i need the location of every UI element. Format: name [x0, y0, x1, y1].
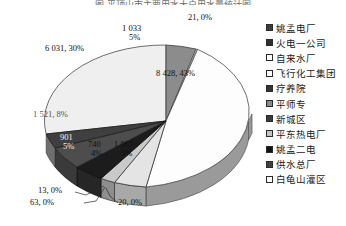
legend-item-baiguishan-irrigation-area[interactable]: 白龟山灌区	[266, 172, 346, 187]
legend-item-pingdong-thermal-plant[interactable]: 平东热电厂	[266, 126, 346, 141]
legend-item-yaomeng-power-plant[interactable]: 姚孟电厂	[266, 20, 346, 35]
legend-swatch-icon	[266, 161, 273, 168]
legend-swatch-icon	[266, 146, 273, 153]
legend-label: 新城区	[276, 112, 306, 126]
legend-swatch-icon	[266, 39, 273, 46]
legend-label: 疗养院	[276, 81, 306, 95]
legend-item-sanatorium[interactable]: 疗养院	[266, 81, 346, 96]
legend-item-pingshizhuan[interactable]: 平师专	[266, 96, 346, 111]
slice-label-1033-percent: 5%	[129, 33, 140, 43]
legend-item-yaomeng-second-power[interactable]: 姚孟二电	[266, 142, 346, 157]
legend-item-thermal-power-company-1[interactable]: 火电一公司	[266, 35, 346, 50]
legend-swatch-icon	[266, 85, 273, 92]
legend-item-water-supply-main-plant[interactable]: 供水总厂	[266, 157, 346, 172]
legend-label: 火电一公司	[276, 36, 326, 50]
legend-label: 平师专	[276, 97, 306, 111]
legend-label: 姚孟二电	[276, 142, 316, 156]
chart-legend: 姚孟电厂 火电一公司 自来水厂 飞行化工集团 疗养院 平师专 新城区 平东热电	[266, 20, 346, 187]
legend-label: 姚孟电厂	[276, 21, 316, 35]
slice-label-20: 20, 0%	[118, 198, 142, 208]
legend-label: 飞行化工集团	[276, 66, 336, 80]
legend-swatch-icon	[266, 24, 273, 31]
slice-label-1521: 1 521, 8%	[33, 110, 68, 120]
slice-label-740-percent: 4%	[91, 149, 102, 159]
legend-swatch-icon	[266, 70, 273, 77]
legend-label: 供水总厂	[276, 157, 316, 171]
legend-swatch-icon	[266, 130, 273, 137]
slice-label-6031: 6 031, 30%	[45, 44, 84, 54]
legend-item-feixing-chemical-group[interactable]: 飞行化工集团	[266, 66, 346, 81]
legend-label: 自来水厂	[276, 51, 316, 65]
legend-label: 白龟山灌区	[276, 172, 326, 186]
slice-6031	[44, 45, 166, 134]
slice-label-901-percent: 5%	[63, 142, 74, 152]
legend-item-new-city-district[interactable]: 新城区	[266, 111, 346, 126]
legend-swatch-icon	[266, 115, 273, 122]
pie-chart-figure: 图 平顶山市主要用水大户用水量统计图	[0, 0, 346, 226]
slice-label-13: 13, 0%	[38, 186, 62, 196]
legend-swatch-icon	[266, 54, 273, 61]
legend-swatch-icon	[266, 100, 273, 107]
slice-label-63: 63, 0%	[30, 198, 54, 208]
legend-swatch-icon	[266, 176, 273, 183]
legend-item-waterworks[interactable]: 自来水厂	[266, 50, 346, 65]
slice-label-1067-percent: 5%	[121, 149, 132, 159]
slice-label-8428: 8 428, 43%	[156, 69, 195, 79]
slice-label-21: 21, 0%	[188, 13, 212, 23]
legend-label: 平东热电厂	[276, 127, 326, 141]
